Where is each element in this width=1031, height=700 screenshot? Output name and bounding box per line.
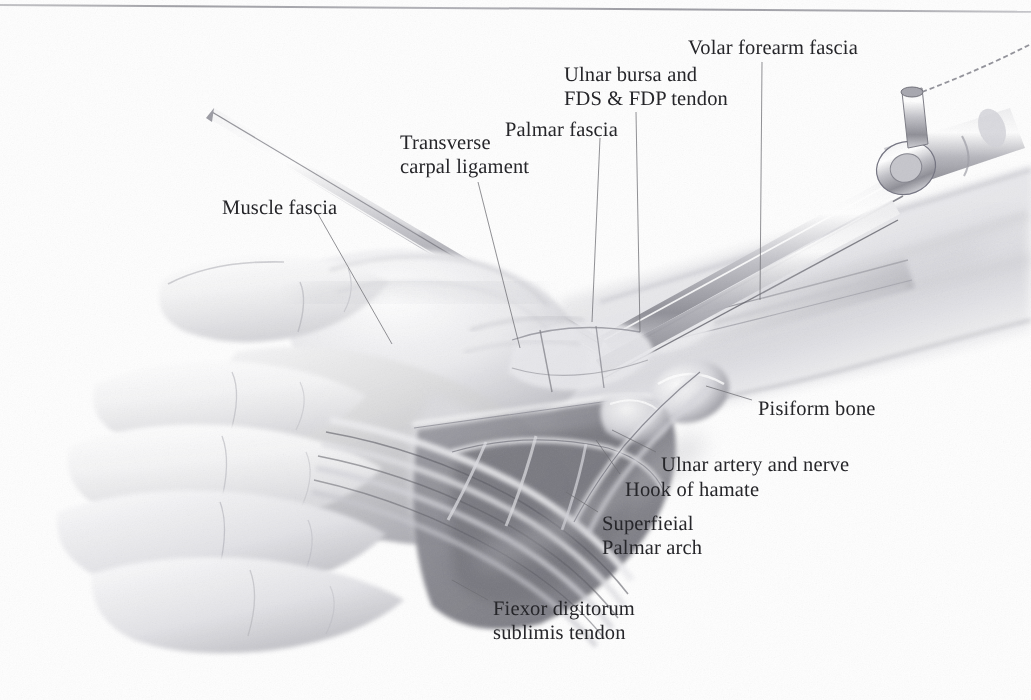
leader-flexor-digitorum-sublimis [452, 580, 488, 600]
leader-superficial-palmar-arch [566, 492, 598, 512]
label-transverse-carpal-ligament: Transverse carpal ligament [400, 131, 529, 179]
label-muscle-fascia: Muscle fascia [222, 196, 337, 220]
label-superficial-palmar-arch: Superfieial Palmar arch [602, 512, 702, 560]
leader-palmar-fascia [592, 138, 600, 322]
label-ulnar-artery-and-nerve: Ulnar artery and nerve [661, 453, 849, 477]
anatomical-figure: Volar forearm fascia Ulnar bursa and FDS… [0, 0, 1031, 700]
label-volar-forearm-fascia: Volar forearm fascia [688, 36, 858, 60]
leader-ulnar-artery-nerve [612, 430, 656, 452]
leader-transverse-carpal-ligament [478, 182, 520, 348]
leader-muscle-fascia [318, 214, 392, 344]
leader-pisiform-bone [706, 386, 752, 400]
label-pisiform-bone: Pisiform bone [758, 397, 876, 421]
leader-ulnar-bursa [636, 112, 640, 332]
label-hook-of-hamate: Hook of hamate [625, 478, 759, 502]
leader-lines [0, 0, 1031, 700]
leader-volar-forearm-fascia [760, 62, 762, 300]
label-ulnar-bursa-and-fds-fdp-tendon: Ulnar bursa and FDS & FDP tendon [564, 63, 728, 111]
leader-hook-of-hamate [596, 440, 620, 474]
label-flexor-digitorum-sublimis-tendon: Fiexor digitorum sublimis tendon [493, 597, 635, 645]
